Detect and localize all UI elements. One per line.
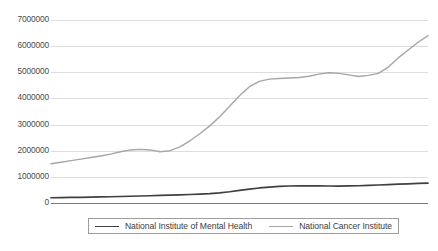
legend-line-swatch-icon xyxy=(95,226,119,227)
series-line xyxy=(51,183,428,198)
legend-line-swatch-icon xyxy=(269,226,293,227)
line-chart: 7000000600000050000004000000300000020000… xyxy=(0,0,438,251)
legend-item[interactable]: National Cancer Institute xyxy=(269,221,392,231)
chart-legend: National Institute of Mental HealthNatio… xyxy=(88,218,399,234)
y-axis-tick-label: 7000000 xyxy=(1,15,49,24)
y-axis-tick-label: 4000000 xyxy=(1,93,49,102)
y-axis-tick-label: 6000000 xyxy=(1,41,49,50)
series-line xyxy=(51,36,428,164)
gridlines xyxy=(51,21,428,204)
plot-area xyxy=(0,0,438,212)
y-axis-tick-label: 1000000 xyxy=(1,172,49,181)
y-axis-tick-label: 3000000 xyxy=(1,120,49,129)
y-axis-tick-label: 5000000 xyxy=(1,67,49,76)
y-axis-tick-label: 2000000 xyxy=(1,146,49,155)
y-axis-tick-labels: 7000000600000050000004000000300000020000… xyxy=(0,0,49,212)
legend-item-label: National Cancer Institute xyxy=(299,221,392,231)
legend-item[interactable]: National Institute of Mental Health xyxy=(95,221,252,231)
plot-canvas xyxy=(0,0,438,212)
legend-item-label: National Institute of Mental Health xyxy=(125,221,252,231)
y-axis-tick-label: 0 xyxy=(1,198,49,207)
series-lines xyxy=(51,36,428,198)
